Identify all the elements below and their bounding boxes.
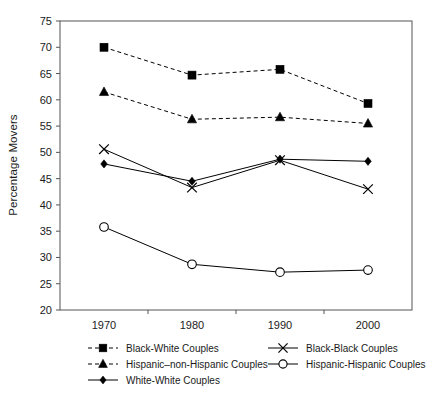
x-axis-tick-label: 1980 (180, 319, 204, 331)
legend-entry[interactable]: Black-Black Couples (268, 343, 398, 354)
legend-entry[interactable]: Hispanic–non-Hispanic Couples (88, 359, 268, 370)
y-axis-tick-label: 65 (40, 68, 52, 80)
legend-entry[interactable]: White-White Couples (88, 375, 220, 386)
x-axis-tick-label: 2000 (356, 319, 380, 331)
legend-entry[interactable]: Black-White Couples (88, 343, 219, 354)
marker-triangle (99, 359, 108, 367)
y-axis-tick-label: 75 (40, 15, 52, 27)
y-axis-tick-label: 60 (40, 94, 52, 106)
y-axis-tick-label: 30 (40, 251, 52, 263)
marker-square (99, 344, 107, 352)
marker-circle (364, 266, 373, 275)
y-axis-tick-label: 40 (40, 199, 52, 211)
y-axis-tick-label: 20 (40, 304, 52, 316)
y-axis-tick-label: 35 (40, 225, 52, 237)
marker-circle (188, 260, 197, 269)
x-axis-tick-label: 1970 (92, 319, 116, 331)
y-axis-label-text: Percentage Movers (7, 114, 19, 215)
marker-square (188, 71, 196, 79)
y-axis-tick-label: 50 (40, 146, 52, 158)
legend-entry-label: Hispanic-Hispanic Couples (306, 359, 426, 370)
y-axis-tick-label: 55 (40, 120, 52, 132)
legend-entry-label: Black-White Couples (126, 343, 219, 354)
line-chart-plot: 2025303540455055606570751970198019902000… (0, 0, 430, 399)
marker-circle (279, 360, 287, 368)
chart-legend: Black-White CouplesHispanic–non-Hispanic… (88, 343, 426, 386)
marker-diamond (100, 376, 106, 384)
chart-figure: Percentage Movers 2025303540455055606570… (0, 0, 430, 399)
y-axis-tick-label: 25 (40, 278, 52, 290)
marker-circle (100, 223, 109, 232)
marker-square (276, 65, 284, 73)
y-axis-tick-label: 45 (40, 173, 52, 185)
y-axis-tick-label: 70 (40, 41, 52, 53)
legend-entry-label: Black-Black Couples (306, 343, 398, 354)
x-axis-tick-label: 1990 (268, 319, 292, 331)
marker-square (364, 99, 372, 107)
legend-entry-label: Hispanic–non-Hispanic Couples (126, 359, 268, 370)
y-axis-label: Percentage Movers (0, 0, 26, 330)
legend-entry-label: White-White Couples (126, 375, 220, 386)
marker-square (100, 43, 108, 51)
legend-entry[interactable]: Hispanic-Hispanic Couples (268, 359, 426, 370)
marker-circle (276, 268, 285, 277)
